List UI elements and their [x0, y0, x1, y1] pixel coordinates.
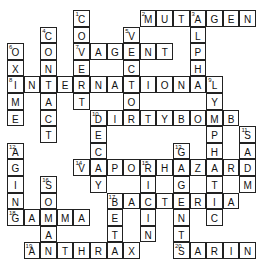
crossword-cell[interactable]: Y: [90, 176, 107, 193]
crossword-cell[interactable]: T: [156, 43, 173, 60]
crossword-cell[interactable]: 11S: [239, 126, 256, 143]
crossword-cell[interactable]: N: [140, 43, 157, 60]
crossword-cell[interactable]: T: [40, 76, 57, 93]
crossword-cell[interactable]: A: [190, 242, 207, 259]
crossword-cell[interactable]: 13G: [173, 143, 190, 160]
crossword-cell[interactable]: M: [57, 209, 74, 226]
crossword-cell[interactable]: N: [90, 76, 107, 93]
crossword-cell[interactable]: E: [7, 110, 24, 127]
crossword-cell[interactable]: P: [190, 43, 207, 60]
crossword-cell[interactable]: C: [40, 110, 57, 127]
crossword-cell[interactable]: A: [24, 209, 41, 226]
crossword-cell[interactable]: E: [173, 193, 190, 210]
crossword-cell[interactable]: T: [140, 110, 157, 127]
crossword-cell[interactable]: 18G: [7, 209, 24, 226]
crossword-cell[interactable]: O: [73, 27, 90, 44]
crossword-cell[interactable]: Z: [190, 159, 207, 176]
crossword-cell[interactable]: 16S: [40, 176, 57, 193]
crossword-cell[interactable]: M: [239, 176, 256, 193]
crossword-cell[interactable]: A: [190, 76, 207, 93]
crossword-cell[interactable]: T: [123, 76, 140, 93]
crossword-cell[interactable]: A: [223, 193, 240, 210]
crossword-cell[interactable]: T: [156, 193, 173, 210]
crossword-cell[interactable]: I: [107, 110, 124, 127]
crossword-cell[interactable]: I: [223, 242, 240, 259]
crossword-cell[interactable]: L: [190, 27, 207, 44]
crossword-cell[interactable]: I: [140, 176, 157, 193]
crossword-cell[interactable]: C: [206, 209, 223, 226]
crossword-cell[interactable]: T: [173, 10, 190, 27]
crossword-cell[interactable]: M: [7, 93, 24, 110]
crossword-cell[interactable]: I: [7, 176, 24, 193]
crossword-cell[interactable]: A: [107, 242, 124, 259]
crossword-cell[interactable]: O: [190, 110, 207, 127]
crossword-cell[interactable]: I: [140, 209, 157, 226]
crossword-cell[interactable]: R: [206, 242, 223, 259]
crossword-cell[interactable]: A: [90, 159, 107, 176]
crossword-cell[interactable]: N: [40, 60, 57, 77]
crossword-cell[interactable]: X: [123, 242, 140, 259]
crossword-cell[interactable]: M: [40, 209, 57, 226]
crossword-cell[interactable]: 6O: [7, 43, 24, 60]
crossword-cell[interactable]: 14V: [73, 159, 90, 176]
crossword-cell[interactable]: R: [190, 193, 207, 210]
crossword-cell[interactable]: O: [40, 43, 57, 60]
crossword-cell[interactable]: N: [239, 242, 256, 259]
crossword-cell[interactable]: H: [73, 242, 90, 259]
crossword-cell[interactable]: N: [173, 76, 190, 93]
crossword-cell[interactable]: G: [206, 10, 223, 27]
crossword-cell[interactable]: A: [73, 209, 90, 226]
crossword-cell[interactable]: A: [40, 226, 57, 243]
crossword-cell[interactable]: 12A: [7, 143, 24, 160]
crossword-cell[interactable]: D: [239, 159, 256, 176]
crossword-cell[interactable]: H: [190, 60, 207, 77]
crossword-cell[interactable]: A: [40, 93, 57, 110]
crossword-cell[interactable]: A: [107, 76, 124, 93]
crossword-cell[interactable]: 4C: [40, 27, 57, 44]
crossword-cell[interactable]: N: [7, 193, 24, 210]
crossword-cell[interactable]: 8I: [7, 76, 24, 93]
crossword-cell[interactable]: N: [173, 209, 190, 226]
crossword-cell[interactable]: T: [57, 242, 74, 259]
crossword-cell[interactable]: G: [107, 43, 124, 60]
crossword-cell[interactable]: E: [90, 126, 107, 143]
crossword-cell[interactable]: Y: [156, 110, 173, 127]
crossword-cell[interactable]: 15R: [140, 159, 157, 176]
crossword-cell[interactable]: C: [140, 193, 157, 210]
crossword-cell[interactable]: I: [140, 76, 157, 93]
crossword-cell[interactable]: 7V: [73, 43, 90, 60]
crossword-cell[interactable]: G: [7, 159, 24, 176]
crossword-cell[interactable]: O: [123, 93, 140, 110]
crossword-cell[interactable]: 3A: [190, 10, 207, 27]
crossword-cell[interactable]: 2M: [140, 10, 157, 27]
crossword-cell[interactable]: I: [206, 193, 223, 210]
crossword-cell[interactable]: O: [123, 159, 140, 176]
crossword-cell[interactable]: T: [206, 176, 223, 193]
crossword-cell[interactable]: A: [90, 43, 107, 60]
crossword-cell[interactable]: U: [156, 10, 173, 27]
crossword-cell[interactable]: O: [156, 76, 173, 93]
crossword-cell[interactable]: A: [173, 159, 190, 176]
crossword-cell[interactable]: 19A: [24, 242, 41, 259]
crossword-cell[interactable]: E: [123, 43, 140, 60]
crossword-cell[interactable]: E: [107, 209, 124, 226]
crossword-cell[interactable]: T: [173, 226, 190, 243]
crossword-cell[interactable]: T: [73, 93, 90, 110]
crossword-cell[interactable]: R: [123, 110, 140, 127]
crossword-cell[interactable]: 5V: [123, 27, 140, 44]
crossword-cell[interactable]: E: [223, 10, 240, 27]
crossword-cell[interactable]: C: [123, 60, 140, 77]
crossword-cell[interactable]: N: [239, 10, 256, 27]
crossword-cell[interactable]: G: [173, 176, 190, 193]
crossword-cell[interactable]: 20S: [173, 242, 190, 259]
crossword-cell[interactable]: P: [206, 126, 223, 143]
crossword-cell[interactable]: A: [206, 159, 223, 176]
crossword-cell[interactable]: N: [40, 242, 57, 259]
crossword-cell[interactable]: N: [24, 76, 41, 93]
crossword-cell[interactable]: T: [107, 226, 124, 243]
crossword-cell[interactable]: 1C: [73, 10, 90, 27]
crossword-cell[interactable]: C: [90, 143, 107, 160]
crossword-cell[interactable]: Y: [206, 93, 223, 110]
crossword-cell[interactable]: M: [206, 110, 223, 127]
crossword-cell[interactable]: E: [73, 60, 90, 77]
